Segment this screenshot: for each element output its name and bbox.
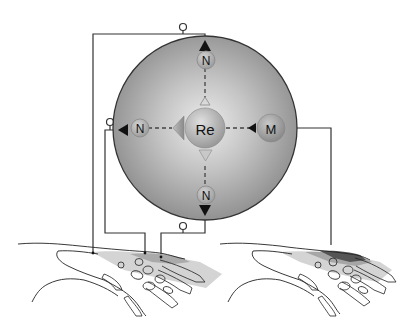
right-hand <box>220 243 396 316</box>
node-motor-label: M <box>266 122 277 137</box>
node-bottom: N <box>197 186 215 204</box>
receptive-field-diagram: Re N N N M <box>0 0 409 325</box>
node-top: N <box>197 51 215 69</box>
synapse-bottom <box>180 223 187 230</box>
node-left: N <box>131 119 149 137</box>
wire-bottom-neuron <box>161 215 205 257</box>
node-top-label: N <box>202 54 211 68</box>
left-hand <box>18 243 222 316</box>
synapse-top <box>180 24 187 31</box>
node-bottom-label: N <box>202 189 211 203</box>
node-center-label: Re <box>195 121 214 138</box>
node-center: Re <box>185 108 225 148</box>
node-motor: M <box>257 114 285 142</box>
node-left-label: N <box>136 122 145 136</box>
